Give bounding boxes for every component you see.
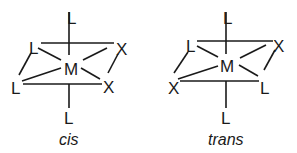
cis-bond-front-left xyxy=(22,68,61,81)
cis-caption: cis xyxy=(59,131,79,148)
cis-isomer: L L X M L X L cis xyxy=(11,9,127,148)
cis-bond-back-left xyxy=(38,48,61,60)
trans-metal: M xyxy=(220,57,234,76)
trans-ligand-axial-bottom: L xyxy=(221,109,230,128)
trans-ligand-front-right: L xyxy=(260,79,269,98)
cis-bond-front-right xyxy=(81,68,100,79)
trans-caption: trans xyxy=(208,131,244,148)
cis-bond-back-right xyxy=(83,48,107,60)
trans-ligand-back-right: X xyxy=(273,37,284,56)
trans-bond-front-left xyxy=(178,66,218,79)
cis-ligand-front-right: X xyxy=(103,78,114,97)
trans-bond-front-right xyxy=(239,65,258,76)
cis-ligand-back-left: L xyxy=(29,39,38,58)
trans-bond-back-left xyxy=(197,46,218,57)
cis-ligand-front-left: L xyxy=(11,79,20,98)
trans-ligand-front-left: X xyxy=(168,79,179,98)
cis-ligand-back-right: X xyxy=(116,40,127,59)
trans-ligand-back-left: L xyxy=(186,37,195,56)
trans-ligand-axial-top: L xyxy=(223,9,232,28)
cis-ligand-axial-top: L xyxy=(67,9,76,28)
trans-isomer: L L X M X L L trans xyxy=(168,9,284,148)
cis-metal: M xyxy=(64,60,78,79)
cis-ligand-axial-bottom: L xyxy=(64,109,73,128)
isomer-diagram: L L X M L X L cis L L X M X L L trans xyxy=(0,0,297,153)
trans-bond-back-right xyxy=(240,45,266,58)
